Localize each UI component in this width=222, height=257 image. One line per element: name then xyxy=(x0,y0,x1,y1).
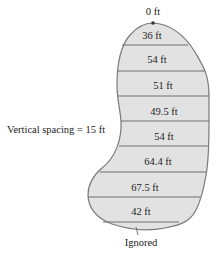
width-label: 64.4 ft xyxy=(144,156,171,167)
width-label: 36 ft xyxy=(142,30,162,41)
width-label: 54 ft xyxy=(154,131,174,142)
width-label: 42 ft xyxy=(131,206,151,217)
region-diagram: 0 ft 36 ft54 ft51 ft49.5 ft54 ft64.4 ft6… xyxy=(0,0,222,257)
width-label: 51 ft xyxy=(153,80,173,91)
width-label: 49.5 ft xyxy=(150,106,177,117)
width-label: 67.5 ft xyxy=(131,182,158,193)
spacing-label: Vertical spacing = 15 ft xyxy=(7,124,105,135)
top-label: 0 ft xyxy=(146,6,160,17)
ignored-label: Ignored xyxy=(125,237,158,248)
top-point-marker xyxy=(151,21,155,25)
width-label: 54 ft xyxy=(147,54,167,65)
